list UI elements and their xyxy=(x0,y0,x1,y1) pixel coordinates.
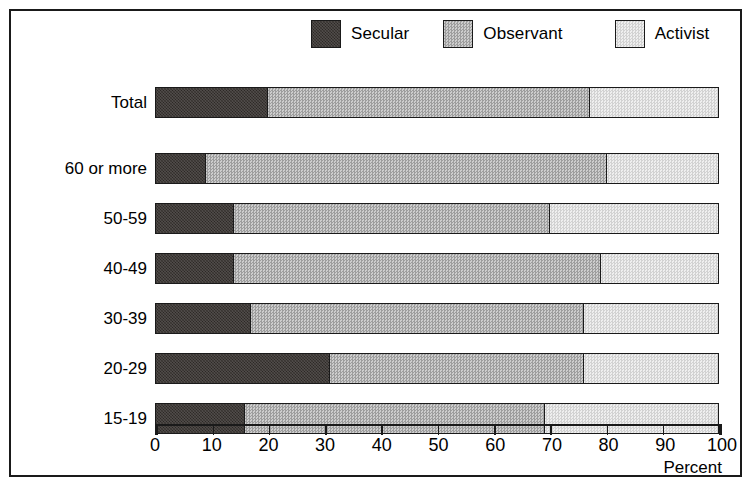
legend-entry-observant: Observant xyxy=(443,20,562,48)
bar-segment-activist xyxy=(583,303,719,334)
x-axis-line xyxy=(155,424,722,435)
axis-tick xyxy=(494,426,496,435)
axis-tick xyxy=(213,426,215,435)
legend-swatch-observant-icon xyxy=(443,20,473,48)
axis-tick xyxy=(325,426,327,435)
axis-tick-label: 30 xyxy=(315,435,335,456)
bar-segment-observant xyxy=(233,253,602,284)
axis-tick xyxy=(438,426,440,435)
axis-tick-label: 60 xyxy=(485,435,505,456)
axis-tick-label: 40 xyxy=(372,435,392,456)
axis-tick-label: 80 xyxy=(599,435,619,456)
category-label: 15-19 xyxy=(21,409,147,429)
bar-segment-observant xyxy=(250,303,585,334)
bar-segment-observant xyxy=(233,203,551,234)
axis-tick-label: 90 xyxy=(655,435,675,456)
bar-row xyxy=(155,153,722,184)
axis-tick-label: 0 xyxy=(150,435,160,456)
chart-legend: Secular Observant Activist xyxy=(311,15,709,53)
axis-tick-label: 100 xyxy=(707,435,737,456)
axis-tick xyxy=(719,426,721,435)
bar-row xyxy=(155,87,722,118)
category-label: 20-29 xyxy=(21,359,147,379)
bar-segment-activist xyxy=(600,253,719,284)
axis-tick xyxy=(607,426,609,435)
bar-segment-observant xyxy=(267,87,590,118)
bar-segment-activist xyxy=(583,353,719,384)
bar-segment-activist xyxy=(549,203,719,234)
axis-tick xyxy=(550,426,552,435)
bar-segment-secular xyxy=(155,153,206,184)
axis-tick-label: 10 xyxy=(202,435,222,456)
category-label: 60 or more xyxy=(21,159,147,179)
bar-segment-secular xyxy=(155,87,268,118)
legend-entry-activist: Activist xyxy=(615,20,710,48)
category-label: Total xyxy=(21,93,147,113)
bar-segment-observant xyxy=(205,153,608,184)
bar-segment-secular xyxy=(155,253,234,284)
axis-tick-label: 20 xyxy=(258,435,278,456)
bar-row xyxy=(155,303,722,334)
legend-label-activist: Activist xyxy=(655,24,710,44)
category-label: 50-59 xyxy=(21,209,147,229)
bar-segment-observant xyxy=(329,353,584,384)
bar-segment-activist xyxy=(589,87,719,118)
x-axis-title: Percent xyxy=(511,458,722,478)
bar-segment-secular xyxy=(155,353,331,384)
bar-segment-secular xyxy=(155,203,234,234)
axis-tick xyxy=(269,426,271,435)
legend-entry-secular: Secular xyxy=(311,20,409,48)
axis-tick-label: 70 xyxy=(542,435,562,456)
legend-label-secular: Secular xyxy=(351,24,409,44)
chart-figure: Secular Observant Activist Total60 or mo… xyxy=(9,9,742,477)
x-axis-tick-labels: 0102030405060708090100 xyxy=(155,435,722,459)
axis-tick xyxy=(663,426,665,435)
legend-label-observant: Observant xyxy=(483,24,562,44)
category-label: 40-49 xyxy=(21,259,147,279)
bar-row xyxy=(155,203,722,234)
bar-segment-activist xyxy=(606,153,719,184)
category-axis-labels: Total60 or more50-5940-4930-3920-2915-19 xyxy=(19,69,147,424)
category-label: 30-39 xyxy=(21,309,147,329)
plot-area xyxy=(155,69,722,424)
axis-tick xyxy=(381,426,383,435)
bar-segment-secular xyxy=(155,303,251,334)
bar-row xyxy=(155,253,722,284)
axis-tick xyxy=(156,426,158,435)
bar-row xyxy=(155,353,722,384)
legend-swatch-activist-icon xyxy=(615,20,645,48)
legend-swatch-secular-icon xyxy=(311,20,341,48)
axis-tick-label: 50 xyxy=(428,435,448,456)
